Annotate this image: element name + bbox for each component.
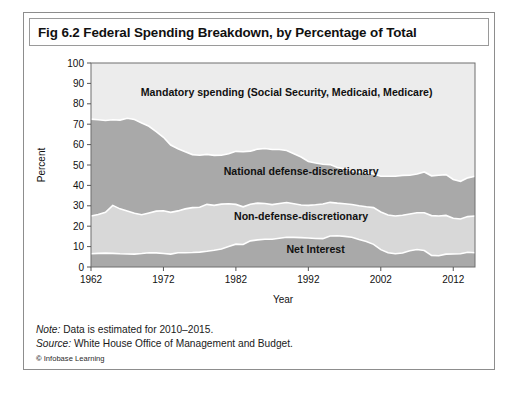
copyright-text: Infobase Learning [42, 354, 105, 363]
y-tick-label: 70 [73, 119, 85, 130]
series-label-1: Mandatory spending (Social Security, Med… [141, 86, 433, 98]
figure-title-box: Fig 6.2 Federal Spending Breakdown, by P… [29, 18, 489, 46]
source-text: White House Office of Management and Bud… [71, 338, 293, 349]
figure-container: Fig 6.2 Federal Spending Breakdown, by P… [23, 12, 495, 370]
source-label: Source: [36, 338, 71, 349]
note-line: Note: Data is estimated for 2010–2015. [36, 323, 476, 337]
y-tick-label: 20 [73, 221, 85, 232]
figure-notes: Note: Data is estimated for 2010–2015. S… [36, 323, 476, 363]
y-tick-label: 50 [73, 160, 85, 171]
note-label: Note: [36, 324, 60, 335]
series-label-3: Non-defense-discretionary [234, 210, 368, 222]
x-tick-label: 1992 [297, 274, 320, 285]
x-tick-label: 2002 [370, 274, 393, 285]
stacked-area-chart: 0102030405060708090100196219721982199220… [29, 51, 489, 313]
x-tick-label: 1962 [80, 274, 103, 285]
x-tick-label: 2012 [442, 274, 465, 285]
x-tick-label: 1972 [152, 274, 175, 285]
x-tick-label: 1982 [225, 274, 248, 285]
y-tick-label: 100 [67, 58, 84, 69]
series-label-2: National defense-discretionary [224, 165, 379, 177]
note-text: Data is estimated for 2010–2015. [60, 324, 213, 335]
y-tick-label: 80 [73, 98, 85, 109]
series-label-4: Net Interest [286, 243, 345, 255]
y-tick-label: 60 [73, 139, 85, 150]
y-tick-label: 0 [78, 262, 84, 273]
x-axis-title: Year [273, 294, 294, 305]
copyright-line: © Infobase Learning [36, 354, 476, 363]
chart-canvas: 0102030405060708090100196219721982199220… [29, 51, 489, 313]
source-line: Source: White House Office of Management… [36, 337, 476, 351]
y-tick-label: 40 [73, 180, 85, 191]
y-tick-label: 90 [73, 78, 85, 89]
page-title: Fig 6.2 Federal Spending Breakdown, by P… [30, 25, 417, 40]
y-tick-label: 10 [73, 241, 85, 252]
y-axis-title: Percent [36, 148, 47, 183]
y-tick-label: 30 [73, 200, 85, 211]
